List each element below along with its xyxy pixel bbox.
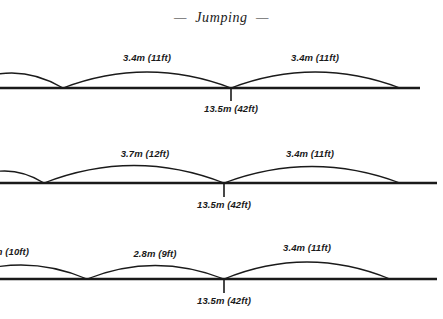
- row-2-arc-2: [224, 167, 400, 184]
- trajectory-svg: [0, 0, 443, 319]
- row-2-arc-2-label: 3.4m (11ft): [286, 148, 334, 159]
- row-2-arc-0: [0, 171, 44, 183]
- row-3-arc-1-label: 2.8m (9ft): [133, 248, 176, 259]
- row-1-arc-1-label: 3.4m (11ft): [123, 52, 171, 63]
- row-2-group: [0, 166, 437, 198]
- row-2-arc-1: [44, 166, 224, 184]
- row-2-arc-1-label: 3.7m (12ft): [121, 148, 170, 159]
- row-1-group: [0, 72, 420, 101]
- row-1-arc-2-label: 3.4m (11ft): [291, 52, 339, 63]
- row-1-tick-label: 13.5m (42ft): [204, 103, 258, 114]
- jumping-diagram-page: — Jumping — ) 3.4m (11ft) 3.: [0, 0, 443, 319]
- row-3-arc-2: [224, 262, 390, 279]
- row-3-arc-2-label: 3.4m (11ft): [283, 242, 331, 253]
- row-1-arc-0: [0, 73, 63, 88]
- row-3-arc-0: [0, 265, 87, 279]
- row-3-edge-label: m (10ft): [0, 246, 29, 257]
- row-3-group: [0, 262, 437, 293]
- row-2-tick-label: 13.5m (42ft): [197, 199, 251, 210]
- row-1-arc-2: [231, 72, 400, 88]
- row-1-arc-1: [63, 72, 231, 88]
- row-3-arc-1: [87, 266, 224, 280]
- row-3-tick-label: 13.5m (42ft): [197, 295, 251, 306]
